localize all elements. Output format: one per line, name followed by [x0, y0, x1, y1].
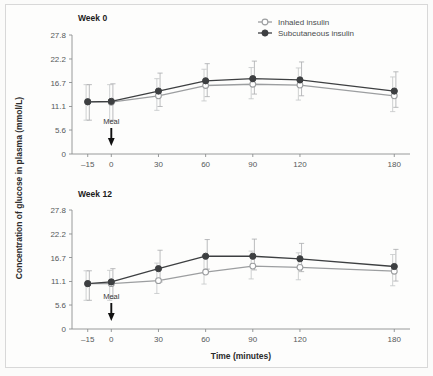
y-tick-label: 5.6: [55, 126, 67, 135]
error-bars-inhaled: [84, 251, 396, 300]
chart-canvas: Week 005.611.116.722.227.8–1503060901201…: [0, 0, 433, 376]
data-point-filled: [391, 263, 397, 269]
error-bars-inhaled: [84, 68, 396, 122]
x-tick-label: –15: [81, 160, 95, 169]
axis-lines: [72, 35, 410, 154]
data-point-filled: [85, 281, 91, 287]
y-tick-label: 0: [62, 325, 67, 334]
legend-label-0: Inhaled insulin: [278, 18, 329, 27]
x-tick-label: 120: [293, 335, 307, 344]
data-point-filled: [297, 256, 303, 262]
x-tick-label: 0: [109, 335, 114, 344]
y-tick-label: 16.7: [50, 254, 66, 263]
series-line-inhaled: [88, 266, 395, 284]
x-tick-label: 90: [248, 160, 257, 169]
data-point-filled: [250, 253, 256, 259]
meal-label: Meal: [103, 292, 120, 301]
data-point-filled: [250, 76, 256, 82]
panel-week-12: Week 1205.611.116.722.227.8–150306090120…: [50, 189, 410, 344]
legend: Inhaled insulinSubcutaneous insulin: [258, 18, 354, 38]
data-point-filled: [297, 77, 303, 83]
data-point-filled: [108, 98, 114, 104]
y-tick-label: 22.2: [50, 55, 66, 64]
x-tick-label: 0: [109, 160, 114, 169]
filled-circle-marker: [262, 30, 268, 36]
x-tick-label: 90: [248, 335, 257, 344]
panel-week-0: Week 005.611.116.722.227.8–1503060901201…: [50, 13, 410, 169]
data-point-open: [250, 263, 256, 269]
x-tick-label: 30: [154, 160, 163, 169]
y-tick-label: 27.8: [50, 206, 66, 215]
data-point-filled: [85, 99, 91, 105]
open-circle-marker: [262, 19, 268, 25]
meal-label: Meal: [103, 117, 120, 126]
data-point-filled: [108, 279, 114, 285]
series-markers-inhaled: [85, 263, 397, 286]
y-tick-label: 5.6: [55, 301, 67, 310]
meal-arrow-head-icon: [108, 313, 115, 321]
y-tick-label: 22.2: [50, 230, 66, 239]
data-point-filled: [391, 88, 397, 94]
x-tick-label: 180: [388, 335, 402, 344]
y-tick-label: 11.1: [51, 277, 67, 286]
x-tick-label: –15: [81, 335, 95, 344]
x-tick-label: 120: [293, 160, 307, 169]
y-tick-label: 16.7: [50, 79, 66, 88]
x-tick-label: 30: [154, 335, 163, 344]
y-axis-title: Concentration of glucose in plasma (mmol…: [14, 97, 24, 279]
x-axis-title: Time (minutes): [211, 351, 271, 361]
data-point-filled: [155, 266, 161, 272]
figure-container: Week 005.611.116.722.227.8–1503060901201…: [0, 0, 433, 376]
y-tick-label: 27.8: [50, 31, 66, 40]
legend-label-1: Subcutaneous insulin: [278, 29, 354, 38]
data-point-open: [203, 269, 209, 275]
data-point-filled: [203, 253, 209, 259]
y-tick-label: 11.1: [51, 102, 67, 111]
series-line-inhaled: [88, 84, 395, 102]
x-tick-label: 180: [388, 160, 402, 169]
y-tick-label: 0: [62, 150, 67, 159]
data-point-filled: [203, 78, 209, 84]
x-tick-label: 60: [201, 335, 210, 344]
data-point-open: [156, 278, 162, 284]
panel-title-week-0: Week 0: [78, 13, 107, 23]
meal-arrow-head-icon: [108, 138, 115, 146]
panel-title-week-12: Week 12: [78, 189, 112, 199]
data-point-open: [297, 264, 303, 270]
data-point-filled: [155, 88, 161, 94]
x-tick-label: 60: [201, 160, 210, 169]
